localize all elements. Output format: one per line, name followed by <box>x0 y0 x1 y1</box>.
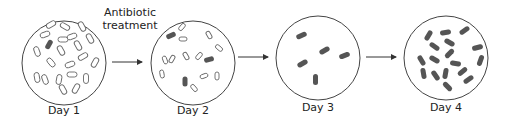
dish-day-1 <box>22 20 106 105</box>
dish-day-4 <box>404 16 488 100</box>
dish-day-3 <box>276 16 360 100</box>
label-day-3: Day 3 <box>298 101 338 114</box>
label-day-2: Day 2 <box>173 104 213 117</box>
antibiotic-treatment-label: Antibiotic treatment <box>100 6 160 32</box>
annotation-line-2: treatment <box>100 19 160 32</box>
label-day-1: Day 1 <box>44 104 84 117</box>
diagram: Antibiotic treatment Day 1 Day 2 Day 3 D… <box>0 0 514 124</box>
dish-day-2 <box>151 21 235 105</box>
label-day-4: Day 4 <box>426 101 466 114</box>
annotation-line-1: Antibiotic <box>100 6 160 19</box>
